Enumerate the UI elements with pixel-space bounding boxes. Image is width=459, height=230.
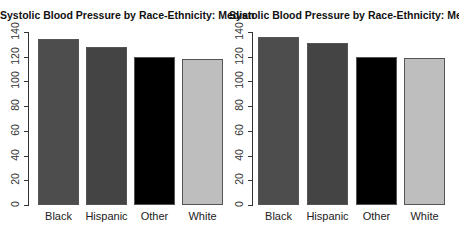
y-tick <box>248 156 253 157</box>
y-tick <box>24 106 29 107</box>
bar-other <box>134 57 175 205</box>
bar-black <box>38 39 79 205</box>
y-tick <box>248 57 253 58</box>
bar-black <box>258 37 299 205</box>
y-tick-label: 0 <box>9 192 21 216</box>
median-chart-panel: Systolic Blood Pressure by Race-Ethnicit… <box>0 0 230 230</box>
y-tick <box>24 81 29 82</box>
y-tick-label: 20 <box>9 167 21 191</box>
y-tick <box>248 32 253 33</box>
y-tick-label: 120 <box>233 44 245 68</box>
y-tick <box>24 156 29 157</box>
bar-hispanic <box>86 47 127 205</box>
y-tick <box>248 205 253 206</box>
y-tick <box>248 81 253 82</box>
y-tick-label: 120 <box>9 44 21 68</box>
y-tick-label: 80 <box>233 93 245 117</box>
chart-title: Systolic Blood Pressure by Race-Ethnicit… <box>229 9 459 21</box>
y-tick-label: 100 <box>9 68 21 92</box>
bar-white <box>404 58 445 205</box>
y-tick <box>24 205 29 206</box>
y-tick <box>248 106 253 107</box>
y-tick-label: 0 <box>233 192 245 216</box>
y-tick-label: 20 <box>233 167 245 191</box>
y-tick-label: 140 <box>233 19 245 43</box>
y-tick <box>248 131 253 132</box>
bar-white <box>182 59 223 205</box>
bar-hispanic <box>307 43 348 205</box>
x-category-label: White <box>395 210 455 222</box>
y-tick <box>24 131 29 132</box>
y-tick-label: 100 <box>233 68 245 92</box>
y-tick <box>24 180 29 181</box>
y-tick <box>24 57 29 58</box>
bar-other <box>356 57 397 205</box>
y-tick-label: 60 <box>233 118 245 142</box>
y-tick-label: 60 <box>9 118 21 142</box>
x-category-label: White <box>173 210 233 222</box>
y-tick-label: 140 <box>9 19 21 43</box>
chart-title: Systolic Blood Pressure by Race-Ethnicit… <box>0 9 230 21</box>
y-tick-label: 40 <box>9 143 21 167</box>
y-tick <box>248 180 253 181</box>
mean-chart-panel: Systolic Blood Pressure by Race-Ethnicit… <box>229 0 459 230</box>
y-tick <box>24 32 29 33</box>
y-tick-label: 40 <box>233 143 245 167</box>
y-tick-label: 80 <box>9 93 21 117</box>
